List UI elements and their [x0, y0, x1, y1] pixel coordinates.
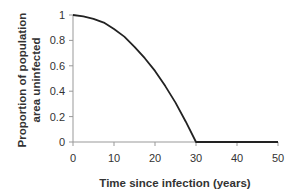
y-tick-label: 0.6	[50, 60, 65, 72]
y-tick-label: 0.2	[50, 111, 65, 123]
x-tick-label: 30	[190, 152, 202, 164]
x-tick-label: 50	[272, 152, 284, 164]
x-tick-label: 10	[108, 152, 120, 164]
x-tick-label: 0	[70, 152, 76, 164]
data-line	[73, 15, 278, 142]
x-tick-label: 20	[149, 152, 161, 164]
y-tick-label: 1	[59, 9, 65, 21]
y-axis-title-line-2: area uninfected	[30, 38, 42, 123]
y-tick-label: 0.8	[50, 34, 65, 46]
axes	[69, 15, 278, 146]
y-tick-label: 0.4	[50, 85, 65, 97]
x-tick-label: 40	[231, 152, 243, 164]
tick-labels: 00.20.40.60.8101020304050	[50, 9, 284, 164]
line-chart: 00.20.40.60.8101020304050 Time since inf…	[0, 0, 296, 194]
y-axis-title-line-1: Proportion of population	[16, 13, 28, 148]
x-axis-title: Time since infection (years)	[99, 177, 250, 189]
y-tick-label: 0	[59, 136, 65, 148]
